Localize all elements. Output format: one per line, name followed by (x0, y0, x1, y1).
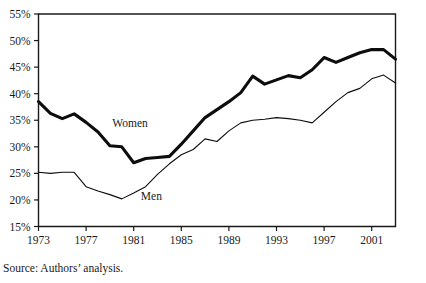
x-tick-label: 1981 (122, 234, 145, 246)
x-tick-label: 2001 (360, 234, 383, 246)
series-annotation-women: Women (112, 117, 148, 129)
x-axis-labels: 19731977198119851989199319972001 (27, 234, 383, 246)
y-tick-label: 45% (9, 61, 31, 73)
y-tick-label: 50% (9, 35, 31, 47)
series-line-men (39, 75, 396, 199)
source-note: Source: Authors’ analysis. (3, 262, 123, 274)
y-axis-labels: 15%20%25%30%35%40%45%50%55% (9, 8, 31, 233)
y-tick-label: 40% (9, 88, 31, 100)
chart-figure: 15%20%25%30%35%40%45%50%55% 197319771981… (0, 0, 426, 283)
plot-frame (39, 14, 396, 227)
x-tick-label: 1989 (217, 234, 240, 246)
line-chart: 15%20%25%30%35%40%45%50%55% 197319771981… (0, 0, 426, 283)
x-tick-label: 1977 (75, 234, 98, 246)
plot-border (39, 14, 396, 227)
y-tick-label: 55% (9, 8, 31, 20)
y-tick-label: 15% (9, 221, 31, 233)
x-tick-label: 1993 (265, 234, 288, 246)
y-tick-label: 20% (9, 194, 31, 206)
series-annotation-men: Men (141, 190, 162, 202)
series-group (39, 50, 396, 199)
y-tick-label: 35% (9, 114, 31, 126)
series-line-women (39, 50, 396, 163)
y-tick-label: 25% (9, 167, 31, 179)
x-tick-label: 1973 (27, 234, 50, 246)
y-tick-label: 30% (9, 141, 31, 153)
series-annotations: WomenMen (112, 117, 162, 202)
x-tick-label: 1997 (313, 234, 336, 246)
x-tick-label: 1985 (170, 234, 193, 246)
